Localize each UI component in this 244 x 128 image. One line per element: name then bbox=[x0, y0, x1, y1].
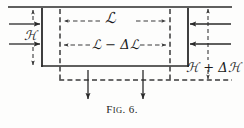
force-arrows-bottom bbox=[88, 70, 143, 99]
label-height-increased: ℋ + Δℋ bbox=[186, 61, 241, 74]
label-length-reduced: ℒ − Δℒ bbox=[92, 38, 139, 51]
caption-number: . 6. bbox=[122, 103, 137, 115]
label-height-left: ℋ bbox=[24, 29, 37, 42]
figure-caption: FIG. 6. bbox=[0, 103, 244, 115]
figure-6-container: ℒ ℒ − Δℒ ℋ ℋ + Δℋ FIG. 6. bbox=[0, 0, 244, 128]
caption-smallcaps: IG bbox=[113, 105, 123, 115]
label-length-top: ℒ bbox=[105, 11, 116, 26]
force-arrows-right bbox=[190, 24, 231, 44]
